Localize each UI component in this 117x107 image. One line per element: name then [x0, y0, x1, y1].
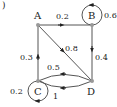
edge-d-c-upper	[38, 74, 92, 81]
markov-chain-diagram: ) A B C D 0.2 0.6 0.8 0.	[0, 0, 117, 107]
node-c-dot	[36, 79, 40, 83]
node-b-dot	[90, 23, 94, 27]
panel-label: )	[2, 0, 6, 10]
weight-d-c-upper: 0.5	[47, 63, 60, 72]
node-b-label: B	[88, 10, 95, 21]
weight-b-d: 0.4	[95, 53, 108, 62]
weight-a-d: 0.8	[65, 44, 78, 53]
weight-c-a: 0.3	[20, 53, 33, 62]
weight-d-c-lower: 1	[53, 92, 58, 101]
edge-a-d	[38, 25, 92, 81]
node-a-dot	[36, 23, 40, 27]
weight-b-b: 0.6	[104, 11, 117, 20]
node-d-dot	[90, 79, 94, 83]
weight-a-b: 0.2	[56, 12, 69, 21]
node-a-label: A	[33, 10, 42, 21]
node-d-label: D	[87, 86, 95, 97]
node-c-label: C	[34, 86, 42, 97]
weight-c-c: 0.2	[10, 87, 23, 96]
